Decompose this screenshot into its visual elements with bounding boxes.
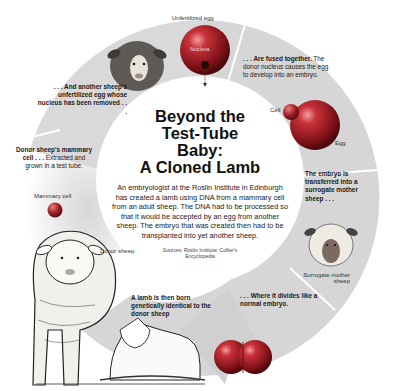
step-birth: A lamb is then born genetically identica… bbox=[131, 294, 211, 319]
title-line-1: Beyond the bbox=[120, 108, 280, 125]
label-cell: Cell bbox=[270, 107, 280, 113]
cloning-diagram: Beyond the Test-Tube Baby: A Cloned Lamb… bbox=[0, 0, 394, 391]
label-surrogate-mother: Surrogate mother sheep bbox=[300, 272, 350, 284]
label-donor-sheep: Donor sheep bbox=[100, 248, 134, 254]
step-fusion-bold: . . . Are fused together. bbox=[243, 55, 312, 62]
step-unfertilized-egg: . . . And another sheep's unfertilized e… bbox=[35, 83, 127, 116]
label-unfertilized-egg: Unfertilized egg bbox=[172, 15, 214, 21]
label-nucleus: Nucleus bbox=[190, 46, 210, 52]
page-title: Beyond the Test-Tube Baby: A Cloned Lamb bbox=[120, 108, 280, 176]
step-division: . . . Where it divides like a normal emb… bbox=[240, 292, 320, 308]
sources: Sources: Roslin Institute; Collier's Enc… bbox=[150, 247, 250, 260]
description: An embryologist at the Roslin Institute … bbox=[112, 183, 288, 241]
title-line-2: Test-Tube bbox=[120, 125, 280, 142]
title-line-3: Baby: bbox=[120, 142, 280, 159]
mammary-cell-icon bbox=[48, 203, 63, 218]
step-donor-cell: Donor sheep's mammary cell . . . Extract… bbox=[14, 146, 94, 171]
label-mammary-cell: Mammary cell bbox=[34, 193, 71, 199]
step-fusion: . . . Are fused together. The donor nucl… bbox=[243, 55, 333, 80]
dividing-embryo-icon bbox=[214, 340, 272, 374]
step-transfer: The embryo is transferred into a surroga… bbox=[305, 170, 365, 203]
label-egg: Egg bbox=[335, 140, 346, 146]
title-line-4: A Cloned Lamb bbox=[120, 159, 280, 176]
donor-sheep-icon bbox=[33, 231, 116, 385]
